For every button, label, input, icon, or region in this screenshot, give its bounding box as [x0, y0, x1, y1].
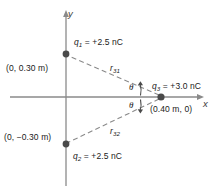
distance-line-r31: [69, 56, 159, 95]
x-axis-label: x: [203, 98, 208, 109]
charge-value-q2: = +2.5 nC: [84, 151, 122, 161]
charge-subscript-q3: 3: [157, 85, 161, 92]
angle-arc-upper-arrowhead: [138, 81, 143, 85]
physics-charge-diagram: q1 = +2.5 nC (0, 0.30 m) q2 = +2.5 nC (0…: [0, 0, 218, 191]
distance-label-r32: r32: [110, 127, 120, 136]
angle-arc-upper: [138, 81, 143, 95]
charge-dot-q2: [63, 141, 70, 148]
charge-label-q1: q1 = +2.5 nC: [74, 38, 123, 47]
charge-dot-q1: [63, 51, 70, 58]
charge-subscript-q1: 1: [79, 41, 83, 48]
charge-dot-q3: [157, 93, 164, 100]
charge-position-q2: (0, −0.30 m): [4, 133, 51, 142]
y-axis: [63, 10, 69, 186]
angle-label-theta-lower: θ: [129, 100, 133, 110]
charge-subscript-q2: 2: [78, 155, 82, 162]
charge-value-q1: = +2.5 nC: [85, 37, 123, 47]
charge-position-q1: (0, 0.30 m): [6, 64, 48, 73]
charge-label-q2: q2 = +2.5 nC: [73, 152, 122, 161]
y-axis-label: y: [68, 8, 73, 19]
charge-value-q3: = +3.0 nC: [163, 81, 201, 91]
diagram-canvas: [0, 0, 218, 191]
distance-subscript-r31: 31: [113, 67, 120, 74]
x-axis: [10, 94, 204, 100]
angle-arc-lower-arrowhead: [138, 109, 143, 113]
charge-position-q3: (0.40 m, 0): [150, 105, 192, 114]
distance-label-r31: r31: [110, 64, 120, 73]
distance-subscript-r32: 32: [113, 130, 120, 137]
charge-label-q3: q3 = +3.0 nC: [152, 82, 201, 91]
angle-label-theta-upper: θ: [129, 82, 133, 92]
